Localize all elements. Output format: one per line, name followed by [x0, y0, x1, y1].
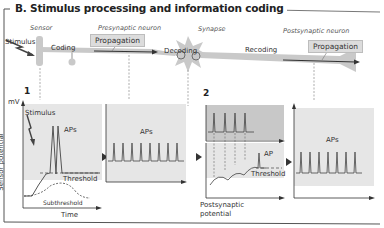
panel-number-1: 1	[24, 86, 30, 96]
y-unit-label: mV	[8, 98, 20, 106]
decoding-label: Decoding	[164, 47, 197, 55]
propagation-box-presynaptic: Propagation	[90, 34, 145, 47]
panel3-xlabel-line2: potential	[200, 210, 231, 218]
stimulus-label: Stimulus	[5, 38, 35, 46]
panel1-threshold-label: Threshold	[63, 175, 98, 183]
presynaptic-label: Presynaptic neuron	[98, 24, 161, 32]
panel1-stimulus-label: Stimulus	[25, 109, 55, 117]
coding-label: Coding	[51, 44, 75, 52]
panel4-aps-label: APs	[326, 136, 339, 144]
panel-presynaptic-aps	[106, 104, 186, 182]
stimulus-processing-figure: B. Stimulus processing and information c…	[0, 0, 384, 228]
panel3-ap-label: AP	[264, 150, 273, 158]
panel3-xlabel-line1: Postsynaptic	[200, 201, 244, 209]
panel1-subthreshold-label: Subthreshold	[43, 199, 83, 206]
panel3-threshold-label: Threshold	[251, 170, 286, 178]
postsynaptic-label: Postsynaptic neuron	[283, 27, 349, 35]
synapse-label: Synapse	[198, 25, 226, 33]
propagation-box-postsynaptic: Propagation	[308, 40, 363, 53]
panel-number-2: 2	[203, 88, 209, 98]
panel2-aps-label: APs	[140, 128, 153, 136]
panel1-xlabel: Time	[61, 211, 78, 219]
panel1-aps-label: APs	[64, 126, 77, 134]
panel1-ylabel: Sensor potential	[0, 133, 5, 190]
sensor-label: Sensor	[30, 24, 52, 32]
sensor-body	[36, 36, 43, 66]
figure-title: B. Stimulus processing and information c…	[12, 2, 287, 14]
panel-postsynaptic-aps	[294, 108, 374, 186]
sensor-node	[69, 59, 76, 66]
recoding-label: Recoding	[245, 46, 277, 54]
